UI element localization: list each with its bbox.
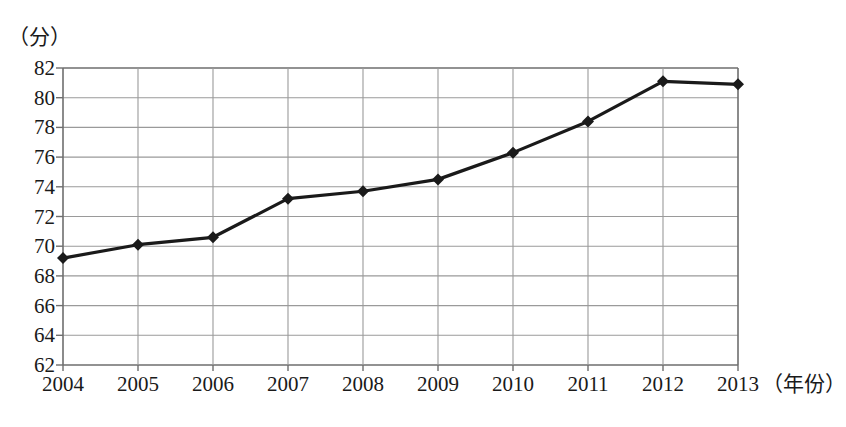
x-axis-tick-label: 2013 xyxy=(717,372,759,396)
y-axis-tick-label: 72 xyxy=(9,207,55,228)
data-point-marker xyxy=(207,231,219,243)
data-point-marker xyxy=(132,239,144,251)
data-point-marker xyxy=(507,147,519,159)
x-axis-tick-label: 2012 xyxy=(642,372,684,396)
x-axis-tick-label: 2010 xyxy=(492,372,534,396)
y-axis-tick-labels: 6264666870727476788082 xyxy=(0,68,55,365)
x-axis-tick-label: 2006 xyxy=(192,372,234,396)
data-point-marker xyxy=(657,75,669,87)
y-axis-tick-label: 66 xyxy=(9,296,55,317)
x-axis-unit-label: （年份） xyxy=(762,372,846,396)
data-point-marker xyxy=(357,185,369,197)
y-axis-tick-label: 64 xyxy=(9,325,55,346)
y-axis-tick-label: 80 xyxy=(9,88,55,109)
y-axis-tick-label: 76 xyxy=(9,147,55,168)
x-axis-tick-label: 2005 xyxy=(117,372,159,396)
data-point-marker xyxy=(432,173,444,185)
x-axis-tick-label: 2009 xyxy=(417,372,459,396)
x-axis-tick-label: 2004 xyxy=(42,372,84,396)
line-chart: （分） 6264666870727476788082 2004200520062… xyxy=(0,0,846,427)
y-axis-tick-label: 68 xyxy=(9,266,55,287)
y-axis-tick-label: 74 xyxy=(9,177,55,198)
x-axis-tick-label: 2008 xyxy=(342,372,384,396)
data-series xyxy=(63,68,738,365)
x-axis-tick-labels: 2004200520062007200820092010201120122013 xyxy=(0,372,846,402)
data-point-marker xyxy=(732,78,744,90)
data-point-marker xyxy=(57,252,69,264)
y-axis-tick-label: 82 xyxy=(9,58,55,79)
y-axis-tick-label: 70 xyxy=(9,236,55,257)
x-axis-tick-label: 2007 xyxy=(267,372,309,396)
y-axis-tick-label: 78 xyxy=(9,117,55,138)
y-axis-unit-label: （分） xyxy=(8,24,71,50)
data-point-marker xyxy=(582,115,594,127)
x-axis-tick-label: 2011 xyxy=(567,372,608,396)
data-point-marker xyxy=(282,193,294,205)
series-line xyxy=(63,81,738,258)
plot-area xyxy=(63,68,738,365)
